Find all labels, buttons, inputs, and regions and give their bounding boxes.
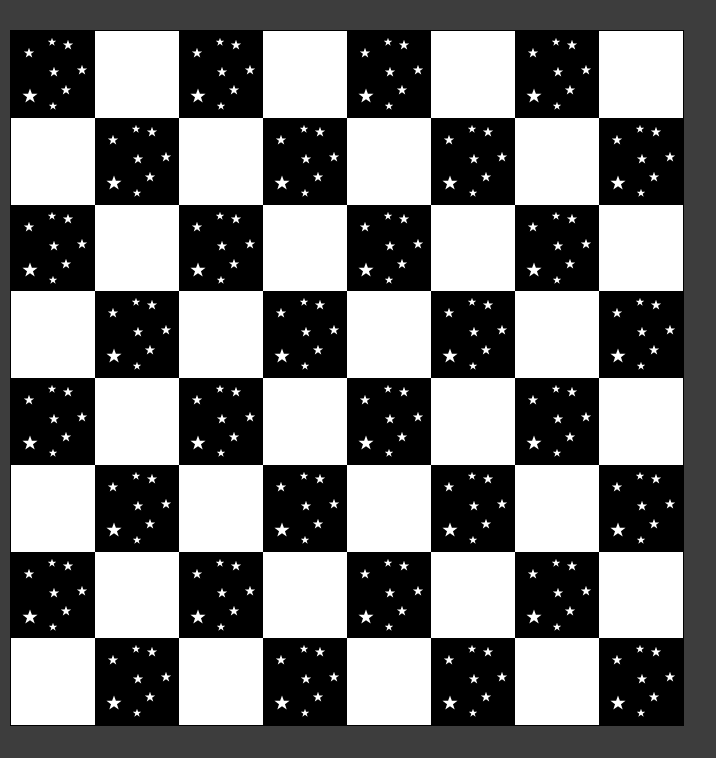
square-f4[interactable] (431, 378, 515, 465)
square-d7[interactable] (263, 118, 347, 205)
star-icon (231, 387, 242, 398)
square-h5[interactable] (599, 291, 683, 378)
square-f5[interactable] (431, 291, 515, 378)
star-icon (552, 38, 561, 47)
star-icon (300, 124, 309, 133)
square-b3[interactable] (95, 465, 179, 552)
star-icon (358, 262, 374, 278)
star-icon (413, 238, 424, 249)
star-icon (565, 258, 576, 269)
square-f6[interactable] (431, 205, 515, 292)
star-icon (567, 560, 578, 571)
star-icon (397, 432, 408, 443)
square-h7[interactable] (599, 118, 683, 205)
square-f3[interactable] (431, 465, 515, 552)
square-a6[interactable] (11, 205, 95, 292)
square-f1[interactable] (431, 638, 515, 725)
square-d2[interactable] (263, 552, 347, 639)
square-c7[interactable] (179, 118, 263, 205)
square-h8[interactable] (599, 31, 683, 118)
star-icon (24, 395, 35, 406)
square-e7[interactable] (347, 118, 431, 205)
star-icon (553, 67, 564, 78)
star-icon (301, 153, 312, 164)
square-a4[interactable] (11, 378, 95, 465)
square-a1[interactable] (11, 638, 95, 725)
square-f2[interactable] (431, 552, 515, 639)
star-icon (274, 695, 290, 711)
square-a2[interactable] (11, 552, 95, 639)
square-c4[interactable] (179, 378, 263, 465)
square-a3[interactable] (11, 465, 95, 552)
square-d8[interactable] (263, 31, 347, 118)
star-icon (497, 672, 508, 683)
star-icon (481, 171, 492, 182)
square-c5[interactable] (179, 291, 263, 378)
star-icon (442, 348, 458, 364)
square-a8[interactable] (11, 31, 95, 118)
square-c2[interactable] (179, 552, 263, 639)
star-icon (469, 709, 478, 718)
square-g3[interactable] (515, 465, 599, 552)
star-icon (636, 298, 645, 307)
square-h1[interactable] (599, 638, 683, 725)
square-e4[interactable] (347, 378, 431, 465)
star-icon (217, 67, 228, 78)
square-b7[interactable] (95, 118, 179, 205)
square-h6[interactable] (599, 205, 683, 292)
star-icon (132, 298, 141, 307)
star-icon (217, 240, 228, 251)
square-e2[interactable] (347, 552, 431, 639)
square-b1[interactable] (95, 638, 179, 725)
square-c3[interactable] (179, 465, 263, 552)
square-e6[interactable] (347, 205, 431, 292)
star-icon (469, 153, 480, 164)
square-c1[interactable] (179, 638, 263, 725)
square-d5[interactable] (263, 291, 347, 378)
square-h2[interactable] (599, 552, 683, 639)
square-d3[interactable] (263, 465, 347, 552)
square-g7[interactable] (515, 118, 599, 205)
square-h4[interactable] (599, 378, 683, 465)
star-icon (481, 518, 492, 529)
star-icon (217, 414, 228, 425)
square-b2[interactable] (95, 552, 179, 639)
star-icon (229, 85, 240, 96)
square-c8[interactable] (179, 31, 263, 118)
square-e3[interactable] (347, 465, 431, 552)
star-icon (300, 471, 309, 480)
square-c6[interactable] (179, 205, 263, 292)
square-b8[interactable] (95, 31, 179, 118)
star-icon (313, 345, 324, 356)
square-d1[interactable] (263, 638, 347, 725)
star-icon (553, 414, 564, 425)
square-h3[interactable] (599, 465, 683, 552)
square-d6[interactable] (263, 205, 347, 292)
square-b6[interactable] (95, 205, 179, 292)
star-icon (22, 88, 38, 104)
square-g5[interactable] (515, 291, 599, 378)
star-icon (651, 126, 662, 137)
square-f7[interactable] (431, 118, 515, 205)
star-icon (651, 300, 662, 311)
star-icon (245, 412, 256, 423)
square-b5[interactable] (95, 291, 179, 378)
square-d4[interactable] (263, 378, 347, 465)
square-e1[interactable] (347, 638, 431, 725)
square-e8[interactable] (347, 31, 431, 118)
square-b4[interactable] (95, 378, 179, 465)
square-a7[interactable] (11, 118, 95, 205)
star-icon (245, 65, 256, 76)
star-icon (77, 585, 88, 596)
square-g1[interactable] (515, 638, 599, 725)
square-f8[interactable] (431, 31, 515, 118)
square-a5[interactable] (11, 291, 95, 378)
square-g4[interactable] (515, 378, 599, 465)
star-icon (637, 500, 648, 511)
star-icon (77, 412, 88, 423)
square-g8[interactable] (515, 31, 599, 118)
square-e5[interactable] (347, 291, 431, 378)
square-g2[interactable] (515, 552, 599, 639)
square-g6[interactable] (515, 205, 599, 292)
star-icon (385, 67, 396, 78)
